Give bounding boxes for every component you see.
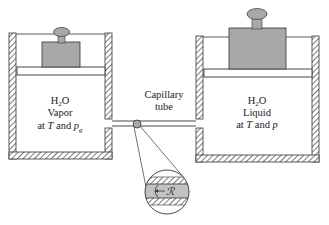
magnified-capillary-view: ℛ [140,170,200,214]
right-weight [229,9,286,70]
left-wall-left [9,33,16,159]
svg-text:at T and pg: at T and pg [37,120,83,134]
radius-symbol: ℛ [166,186,175,197]
right-p: p [272,119,278,130]
right-wall-left [196,36,203,119]
right-wall-bottom [196,155,319,162]
right-at: at [236,119,246,130]
right-piston [204,69,312,77]
capillary-label-line2: tube [155,101,173,112]
left-p-sub: g [79,126,83,134]
left-phase-label: Vapor [47,107,73,118]
right-wall-right [312,36,319,162]
capillary-label-line1: Capillary [144,89,184,100]
left-formula-o: O [62,95,70,106]
left-piston [17,67,105,75]
left-at: at [37,120,47,131]
right-phase-label: Liquid [243,107,272,118]
right-and: and [252,119,272,130]
capillary-equilibrium-diagram: H2O Vapor at T and pg H2O Liquid at T an… [0,0,329,225]
left-wall-right [105,33,112,119]
svg-text:at T and p: at T and p [236,119,278,130]
capillary-tube: Capillary tube [112,89,196,128]
right-formula-o: O [259,95,267,106]
magnify-marker-circle [133,120,141,128]
left-wall-bottom [9,152,112,159]
left-and: and [53,120,73,131]
right-container: H2O Liquid at T and p [196,9,319,163]
left-container: H2O Vapor at T and pg [9,28,112,160]
left-weight [42,28,80,68]
